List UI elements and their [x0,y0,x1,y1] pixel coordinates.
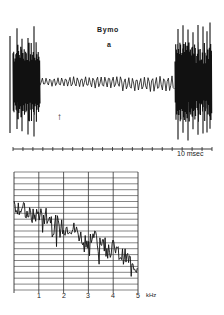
x-tick-5: 5 [136,292,140,299]
spectrum-panel [14,172,138,293]
x-tick-1: 1 [37,292,41,299]
time-scale-label: 10 msec [177,150,203,157]
panel-label: a [107,41,111,48]
x-tick-2: 2 [62,292,66,299]
oscillogram-waveform [40,76,174,92]
figure [0,0,224,315]
x-unit-label: kHz [146,292,156,298]
oscillogram-panel [10,23,212,152]
spectrum-trace [14,201,137,276]
x-tick-4: 4 [111,292,115,299]
spectrum-grid [14,172,138,293]
oscillogram-title: Bymo [97,26,119,33]
x-tick-3: 3 [86,292,90,299]
arrow-up-icon: ↑ [57,112,62,122]
